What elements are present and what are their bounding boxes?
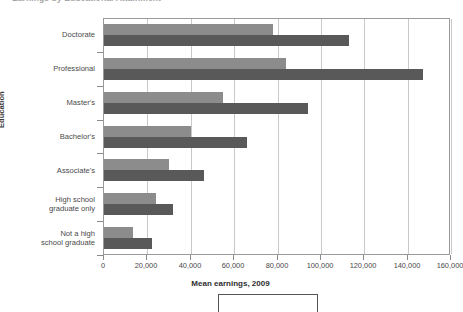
y-axis-tick [97, 86, 103, 87]
bar [104, 204, 173, 215]
x-axis-label: 140,000 [394, 261, 421, 270]
x-axis-tick [146, 255, 147, 260]
y-axis-tick [97, 120, 103, 121]
bar [104, 103, 308, 114]
bar [104, 238, 152, 249]
bar [104, 159, 169, 170]
x-axis-tick [407, 255, 408, 260]
bar [104, 58, 286, 69]
bar [104, 35, 349, 46]
x-axis-label: 60,000 [222, 261, 245, 270]
y-axis-label: Master's [67, 98, 95, 108]
x-axis-label: 160,000 [437, 261, 463, 270]
bar [104, 92, 223, 103]
legend [218, 294, 318, 312]
bar-group [104, 121, 449, 155]
y-axis-title: Education [0, 91, 6, 128]
x-axis-tick [103, 255, 104, 260]
x-axis-label: 100,000 [307, 261, 334, 270]
bar [104, 24, 273, 35]
x-axis-tick [233, 255, 234, 260]
y-axis-label: Professional [53, 64, 95, 74]
bar [104, 126, 191, 137]
x-axis-label: 20,000 [135, 261, 158, 270]
y-axis-tick [97, 187, 103, 188]
plot-area [103, 18, 450, 255]
y-axis-tick [97, 52, 103, 53]
x-axis-tick [190, 255, 191, 260]
x-axis-label: 0 [101, 261, 105, 270]
y-axis-label: Associate's [57, 166, 95, 176]
y-axis-tick [97, 221, 103, 222]
bar-group [104, 87, 449, 121]
x-axis-tick [450, 255, 451, 260]
x-axis-title: Mean earnings, 2009 [0, 279, 461, 288]
y-axis-label: Not a highschool graduate [41, 229, 95, 248]
chart-title: Earnings by Educational Attainment [12, 0, 452, 3]
y-axis-tick [97, 153, 103, 154]
bar-group [104, 53, 449, 87]
bar-group [104, 222, 449, 256]
x-axis-label: 120,000 [350, 261, 377, 270]
x-axis-label: 80,000 [266, 261, 289, 270]
y-axis-label: Bachelor's [60, 132, 95, 142]
x-axis-tick [320, 255, 321, 260]
y-axis-label: High schoolgraduate only [49, 195, 95, 214]
bar-group [104, 188, 449, 222]
bar [104, 69, 423, 80]
bar [104, 137, 247, 148]
gridline-vertical [451, 19, 452, 254]
x-axis-tick [363, 255, 364, 260]
bar [104, 193, 156, 204]
y-axis-label: Doctorate [62, 30, 95, 40]
bar-group [104, 154, 449, 188]
bar [104, 227, 133, 238]
x-axis-tick [277, 255, 278, 260]
x-axis-label: 40,000 [179, 261, 202, 270]
bar [104, 170, 204, 181]
bar-group [104, 19, 449, 53]
